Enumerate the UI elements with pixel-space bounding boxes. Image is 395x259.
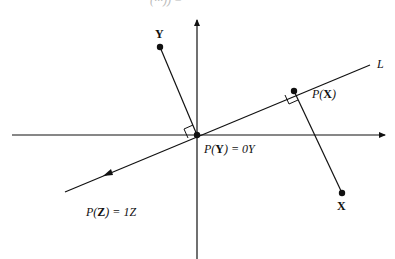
projection-diagram	[0, 0, 395, 259]
label-X: X	[337, 199, 346, 214]
label-PY: P(Y) = 0Y	[204, 142, 255, 157]
point-origin	[194, 132, 200, 138]
point-Y	[157, 44, 163, 50]
segment-X-to-PX	[294, 91, 342, 193]
point-X	[339, 190, 345, 196]
right-angle-marker-origin	[184, 125, 193, 138]
point-PX	[291, 88, 297, 94]
label-Y: Y	[155, 27, 164, 42]
segment-Y-to-origin	[160, 47, 197, 135]
label-L: L	[377, 57, 384, 72]
direction-arrow-icon	[103, 169, 113, 176]
label-PZ: P(Z) = 1Z	[86, 205, 136, 220]
label-PX: P(X)	[312, 87, 336, 102]
